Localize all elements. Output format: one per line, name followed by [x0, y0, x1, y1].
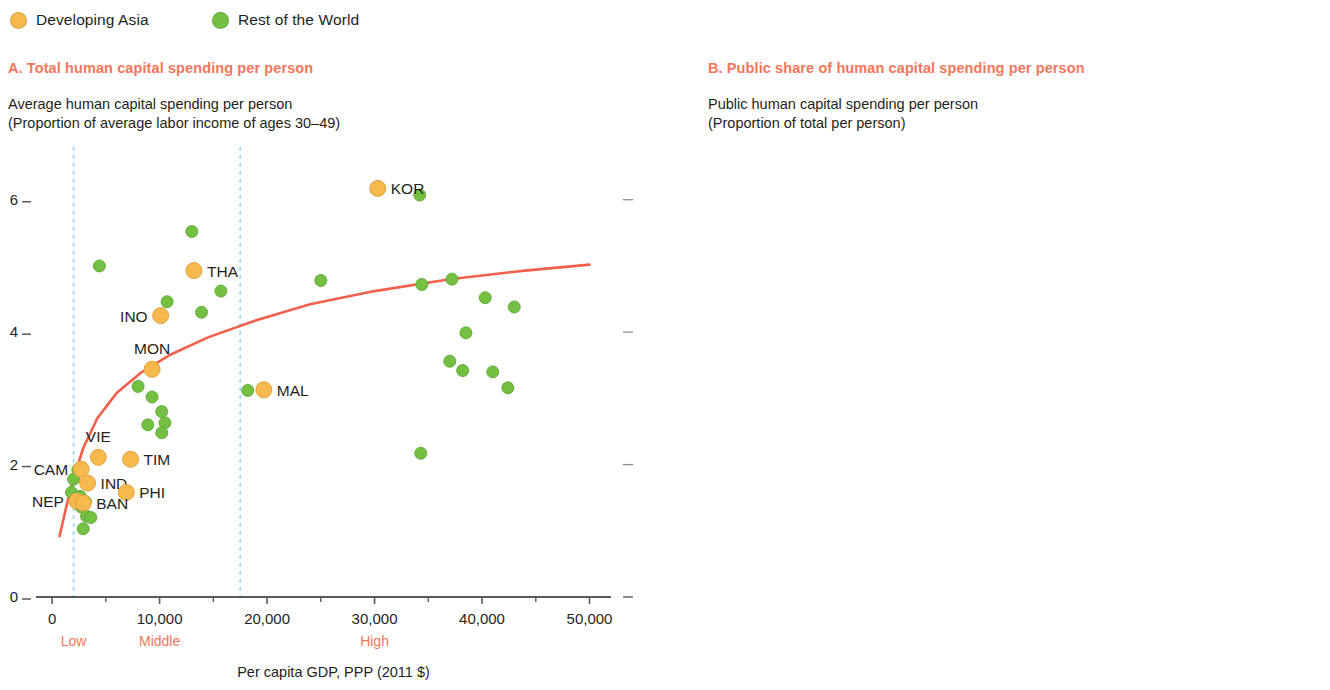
- data-point-vie: [90, 449, 106, 465]
- point-label-mal: MAL: [277, 382, 309, 399]
- data-point-rest-of-world: [487, 366, 499, 378]
- income-band-label: Middle: [139, 633, 180, 649]
- data-point-rest-of-world: [132, 380, 144, 392]
- data-point-mal: [256, 382, 272, 398]
- x-tick-label: 30,000: [352, 610, 398, 627]
- data-point-rest-of-world: [215, 285, 227, 297]
- data-point-rest-of-world: [460, 327, 472, 339]
- data-point-mon: [144, 361, 160, 377]
- data-point-rest-of-world: [457, 365, 469, 377]
- data-point-tim: [123, 451, 139, 467]
- data-point-rest-of-world: [502, 382, 514, 394]
- y-tick-label: 6: [10, 191, 18, 208]
- data-point-rest-of-world: [242, 384, 254, 396]
- scatter-plot-b: 010,00020,00030,00040,00050,000LowMiddle…: [690, 0, 1330, 690]
- point-label-ban: BAN: [96, 495, 128, 512]
- data-point-rest-of-world: [77, 523, 89, 535]
- income-band-label: Low: [61, 633, 88, 649]
- data-point-rest-of-world: [479, 292, 491, 304]
- point-label-tim: TIM: [144, 451, 171, 468]
- data-point-rest-of-world: [161, 296, 173, 308]
- x-tick-label: 20,000: [244, 610, 290, 627]
- x-tick-label: 10,000: [137, 610, 183, 627]
- data-point-ban: [75, 495, 91, 511]
- y-tick-label: 4: [10, 323, 18, 340]
- point-label-phi: PHI: [139, 484, 165, 501]
- x-tick-label: 40,000: [459, 610, 505, 627]
- point-label-kor: KOR: [391, 180, 425, 197]
- panel-b: B. Public share of human capital spendin…: [690, 0, 1330, 690]
- point-label-mon: MON: [134, 340, 170, 357]
- data-point-ino: [153, 308, 169, 324]
- y-tick-label: 0: [10, 588, 18, 605]
- data-point-rest-of-world: [196, 306, 208, 318]
- data-point-rest-of-world: [416, 278, 428, 290]
- point-label-tha: THA: [207, 263, 239, 280]
- data-point-rest-of-world: [186, 226, 198, 238]
- data-point-rest-of-world: [142, 419, 154, 431]
- point-label-cam: CAM: [34, 461, 68, 478]
- x-tick-label: 0: [48, 610, 56, 627]
- data-point-rest-of-world: [156, 427, 168, 439]
- point-label-vie: VIE: [86, 428, 111, 445]
- data-point-rest-of-world: [146, 391, 158, 403]
- data-point-rest-of-world: [85, 512, 97, 524]
- panel-b-plot: 010,00020,00030,00040,00050,000LowMiddle…: [690, 0, 1330, 690]
- income-band-label: High: [360, 633, 389, 649]
- point-label-nep: NEP: [32, 493, 64, 510]
- data-point-rest-of-world: [93, 260, 105, 272]
- data-point-ind: [80, 475, 96, 491]
- data-point-rest-of-world: [156, 406, 168, 418]
- y-tick-label: 2: [10, 456, 18, 473]
- data-point-rest-of-world: [415, 447, 427, 459]
- x-axis-title: Per capita GDP, PPP (2011 $): [237, 664, 430, 680]
- data-point-rest-of-world: [446, 273, 458, 285]
- data-point-rest-of-world: [508, 301, 520, 313]
- panel-a: A. Total human capital spending per pers…: [0, 0, 665, 690]
- x-tick-label: 50,000: [567, 610, 613, 627]
- data-point-rest-of-world: [315, 275, 327, 287]
- data-point-tha: [186, 263, 202, 279]
- point-label-ino: INO: [120, 308, 148, 325]
- data-point-rest-of-world: [444, 355, 456, 367]
- data-point-kor: [370, 180, 386, 196]
